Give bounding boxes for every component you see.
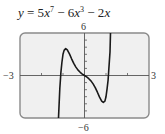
y-max-label: 6 [81, 22, 86, 32]
x-max-label: 3 [151, 71, 156, 81]
y-min-label: −6 [78, 123, 89, 133]
x-min-label: −3 [3, 71, 14, 81]
